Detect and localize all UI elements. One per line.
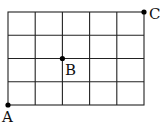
point-c: [141, 9, 146, 14]
label-b: B: [65, 61, 76, 79]
label-c: C: [149, 5, 160, 23]
label-a: A: [1, 108, 13, 125]
point-a: [5, 102, 10, 107]
grid-lines: [8, 12, 144, 105]
grid-diagram: A B C: [0, 0, 164, 125]
